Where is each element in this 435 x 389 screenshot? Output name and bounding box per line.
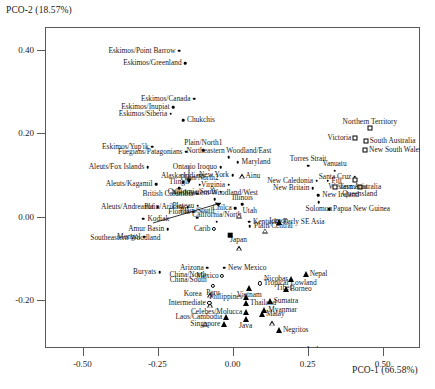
data-point-marker [243, 309, 249, 315]
data-point-label: Northern Territory [343, 118, 398, 126]
data-point-label: Negritos [283, 326, 308, 334]
y-tick [37, 300, 45, 301]
data-point-marker [276, 327, 282, 333]
data-point-marker [213, 198, 216, 201]
data-point-marker [317, 194, 320, 197]
data-point-marker [276, 219, 282, 225]
data-point-marker [182, 119, 185, 122]
data-point-label: Carib [194, 225, 210, 233]
y-tick-label: 0.20 [0, 128, 34, 138]
data-point-label: Southeastern Woodland [90, 234, 160, 242]
data-point-label: Japan [230, 236, 247, 244]
data-point-marker [147, 166, 150, 169]
data-point-marker [193, 97, 196, 100]
x-tick [83, 348, 84, 356]
data-point-marker [352, 136, 357, 141]
data-point-marker [216, 220, 219, 223]
data-point-label: Java [239, 322, 252, 330]
data-point-marker [142, 217, 145, 220]
data-point-label: Early SE Asia [283, 218, 324, 226]
pco-scatter-plot: PCO-2 (18.57%) PCO-1 (66.58%) 0.400.200.… [0, 0, 435, 389]
data-point-marker [328, 208, 331, 211]
y-tick-label: -0.20 [0, 295, 34, 305]
data-point-label: Papua New Guinea [333, 205, 390, 213]
data-point-marker [262, 228, 268, 233]
data-point-marker [307, 165, 310, 168]
data-point-marker [315, 180, 318, 183]
data-point-marker [303, 271, 309, 277]
data-point-label: Queensland [342, 190, 377, 198]
x-tick [383, 348, 384, 356]
data-point-marker [184, 62, 187, 65]
data-point-label: California/North [192, 211, 241, 219]
data-point-label: Northeastern Woodland/East [186, 147, 271, 155]
data-point-marker [223, 314, 229, 320]
data-point-label: Chukchis [187, 116, 215, 124]
data-point-marker [228, 156, 231, 159]
data-point-label: Malay [266, 310, 285, 318]
data-point-label: New Mexico [228, 264, 266, 272]
x-tick-label: -0.25 [135, 359, 181, 369]
data-point-label: Aleuts/Kagamil [106, 180, 153, 188]
data-point-marker [158, 271, 161, 274]
data-point-label: Maryland [242, 158, 271, 166]
data-point-marker [243, 300, 249, 306]
data-point-marker [223, 266, 226, 269]
data-point-marker [212, 227, 216, 231]
data-point-label: Borneo [290, 285, 312, 293]
x-tick-label: 0.00 [210, 359, 256, 369]
data-point-marker [239, 174, 245, 179]
data-point-marker [169, 112, 172, 115]
data-point-marker [221, 321, 227, 327]
y-tick-label: 0.40 [0, 45, 34, 55]
data-point-label: New Britain [273, 184, 309, 192]
data-point-label: Philippines [209, 293, 242, 301]
data-point-label: New South Wales [369, 146, 420, 154]
x-tick-label: 0.50 [360, 359, 406, 369]
data-point-label: Intermediate [169, 299, 206, 307]
y-tick [37, 133, 45, 134]
data-point-label: Sumatra [274, 297, 299, 305]
data-point-marker [318, 201, 321, 204]
data-point-marker [269, 321, 275, 326]
data-point-label: Utah [243, 207, 257, 215]
data-point-label: Illinois [232, 194, 253, 202]
data-point-marker [166, 228, 169, 231]
data-point-label: Andaman [306, 346, 335, 348]
data-point-marker [178, 49, 181, 52]
data-point-label: Fuegians/Patagonians [118, 148, 182, 156]
data-point-marker [283, 286, 289, 292]
data-point-marker [236, 213, 242, 218]
data-point-marker [299, 347, 305, 348]
y-tick [37, 217, 45, 218]
data-point-marker [227, 183, 230, 186]
x-tick-label: -0.50 [60, 359, 106, 369]
x-tick-label: 0.25 [285, 359, 331, 369]
x-tick [308, 348, 309, 356]
data-point-label: Eskimos/Point Barrow [108, 47, 175, 55]
data-point-label: Kodiak [147, 215, 169, 223]
data-point-label: Singapore [190, 320, 220, 328]
y-axis-title: PCO-2 (18.57%) [6, 5, 72, 15]
data-point-marker [231, 174, 234, 177]
data-point-label: Tasmania [339, 183, 367, 191]
data-point-marker [236, 161, 239, 164]
data-point-label: Mexico [196, 272, 219, 280]
data-point-marker [333, 184, 338, 189]
data-point-label: Buryats [133, 268, 156, 276]
data-point-marker [248, 220, 251, 223]
data-point-marker [363, 147, 368, 152]
data-point-marker [367, 126, 372, 131]
data-point-label: Vanuatu [322, 160, 346, 168]
data-point-marker [155, 183, 158, 186]
x-tick [233, 348, 234, 356]
data-point-label: Nicobar [264, 275, 288, 283]
data-point-marker [288, 276, 294, 282]
data-point-marker [220, 274, 224, 278]
data-point-marker [228, 233, 233, 238]
data-point-marker [236, 246, 242, 251]
data-points-layer: Eskimos/Point BarrowEskimos/GreenlandEsk… [45, 27, 420, 348]
data-point-label: Chilca [212, 204, 231, 212]
data-point-marker [172, 106, 175, 109]
data-point-label: South Australia [370, 137, 416, 145]
